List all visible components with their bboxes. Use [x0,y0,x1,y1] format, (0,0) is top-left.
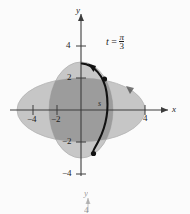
arc-point-upper [102,76,107,81]
parameter-equals: = [111,36,117,47]
ghost-axis-arrowhead [86,198,91,204]
y-tick-label-4: 4 [66,41,71,50]
arc-point-lower [91,151,96,156]
x-axis-label: x [172,105,176,114]
x-tick-label-neg2: −2 [51,115,61,124]
fraction-numerator: π [119,33,124,41]
arc-length-label: s [98,100,101,108]
parameter-fraction: π 3 [119,33,124,51]
y-tick-label-neg2: −2 [62,137,72,146]
parameter-annotation: t = π 3 [106,34,124,52]
x-axis-arrowhead [161,107,168,113]
y-tick-label-neg4: −4 [62,169,72,178]
y-tick-label-2: 2 [67,73,72,82]
y-axis-arrowhead [78,14,84,21]
parameter-variable: t [106,36,109,47]
ghost-tick-label: 4 [84,206,89,214]
y-axis-label: y [76,6,80,15]
ghost-y-axis-label: y [84,189,88,198]
fraction-denominator: 3 [119,41,124,51]
figure-canvas [0,0,190,214]
x-tick-label-4: 4 [143,114,148,123]
parametric-curve-figure: −4 −2 4 4 2 −2 −4 x y t = π 3 s y 4 [0,0,190,214]
x-tick-label-neg4: −4 [27,115,37,124]
